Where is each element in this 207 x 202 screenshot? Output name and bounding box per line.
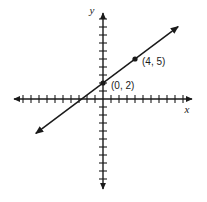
coordinate-plane-svg: y x (0, 2) (4, 5) [0,0,207,202]
data-point-marker [132,56,137,61]
x-axis-label: x [184,103,190,115]
graph-figure: y x (0, 2) (4, 5) [0,0,207,202]
point-label-0-2: (0, 2) [111,80,134,91]
point-label-4-5: (4, 5) [142,56,165,67]
y-axis-label: y [89,4,95,16]
data-point-marker [100,80,105,85]
